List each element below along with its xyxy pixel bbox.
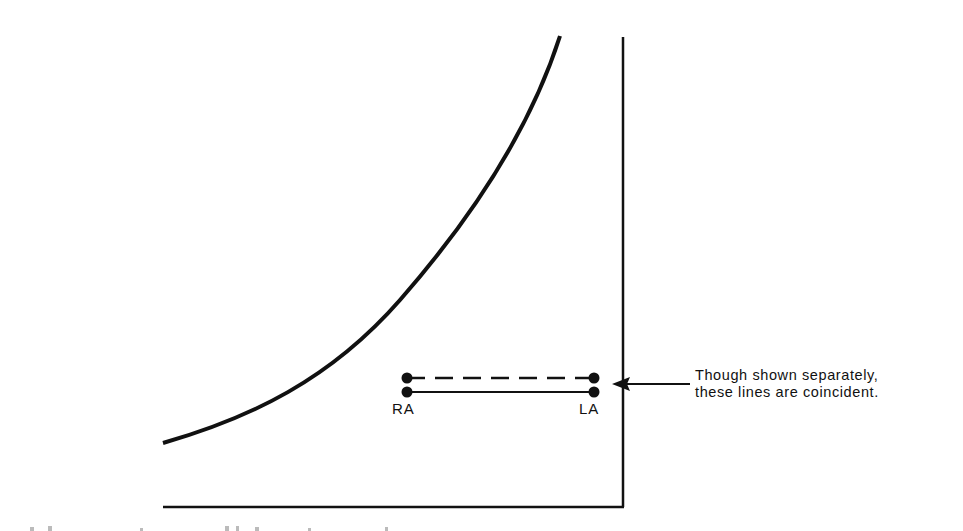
ra-dot-upper xyxy=(402,373,413,384)
ra-dot-lower xyxy=(402,387,413,398)
cutoff-caption-fragments xyxy=(30,526,388,531)
la-dot-lower xyxy=(589,387,600,398)
rising-curve xyxy=(163,36,560,443)
la-dot-upper xyxy=(589,373,600,384)
la-label: LA xyxy=(579,400,599,417)
annotation-note: Though shown separately, these lines are… xyxy=(695,367,879,401)
annotation-line-2: these lines are coincident. xyxy=(695,384,879,401)
annotation-line-1: Though shown separately, xyxy=(695,367,879,384)
diagram-canvas xyxy=(0,0,963,531)
ra-label: RA xyxy=(392,400,415,417)
